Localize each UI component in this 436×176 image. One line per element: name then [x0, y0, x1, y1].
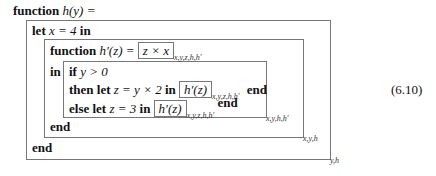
keyword: function: [13, 3, 59, 18]
end-keyword: end: [32, 140, 52, 156]
keyword: then let: [69, 82, 111, 97]
function-header: function h(y) =: [13, 3, 95, 19]
let-x-line: let x = 4 in: [32, 23, 91, 39]
env-subscript: x,y,z,h,h′: [187, 111, 215, 120]
keyword: if: [69, 64, 77, 79]
math: y > 0: [80, 64, 108, 79]
boxed-expr: h′(z): [154, 100, 187, 117]
boxed-expr: z × x: [138, 42, 174, 59]
math: z = y × 2: [114, 82, 162, 97]
if-line: if y > 0: [69, 64, 108, 80]
math: x = 4: [49, 23, 77, 38]
math: h′(z) =: [99, 43, 134, 58]
keyword: in: [80, 23, 91, 38]
keyword: end: [247, 82, 267, 97]
function-hprime-line: function h′(z) = z × xx,y,z,h,h′: [50, 42, 201, 59]
keyword: end: [217, 95, 237, 110]
keyword: else let: [69, 101, 106, 116]
env-subscript: x,y,z,h,h′: [174, 53, 202, 62]
math: z = 3: [109, 101, 136, 116]
math: h(y) =: [62, 3, 95, 18]
keyword: function: [50, 43, 96, 58]
equation-number: (6.10): [391, 82, 422, 98]
keyword: let: [32, 23, 46, 38]
inner-box-env: x,y,h,h′: [266, 114, 288, 123]
keyword: in: [165, 82, 176, 97]
outer-box-env: y,h: [330, 156, 339, 165]
in-keyword: in: [50, 64, 61, 80]
keyword: in: [140, 101, 151, 116]
boxed-expr: h′(z): [179, 81, 212, 98]
end-keyword: end: [50, 119, 70, 135]
middle-box-env: x,y,h: [303, 134, 318, 143]
else-line: else let z = 3 in h′(z)x,y,z,h,h′ end: [69, 100, 238, 117]
